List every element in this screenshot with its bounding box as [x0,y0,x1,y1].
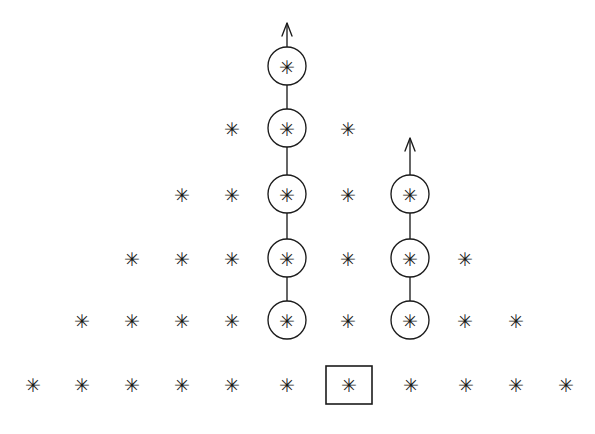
cell-r5-c4[interactable]: ✳ [224,310,240,332]
cell-r5-c6[interactable]: ✳ [340,310,356,332]
cell-r4-c5[interactable]: ✳ [340,248,356,270]
cell-r3-c2[interactable]: ✳ [224,184,240,206]
cell-r3-c3[interactable]: ✳ [268,175,306,213]
star-marker: ✳ [457,248,473,270]
cell-r2-c3[interactable]: ✳ [340,118,356,140]
star-marker: ✳ [174,184,190,206]
star-marker: ✳ [124,374,140,396]
cell-r6-c5[interactable]: ✳ [224,374,240,396]
star-marker: ✳ [174,248,190,270]
cell-r4-c7[interactable]: ✳ [457,248,473,270]
cell-r5-c2[interactable]: ✳ [124,310,140,332]
star-marker: ✳ [279,184,295,206]
cell-r4-c2[interactable]: ✳ [174,248,190,270]
cell-r6-c8[interactable]: ✳ [403,374,419,396]
star-marker: ✳ [402,248,418,270]
cell-r3-c5[interactable]: ✳ [391,175,429,213]
star-marker: ✳ [74,374,90,396]
star-marker: ✳ [340,248,356,270]
cell-r6-c1[interactable]: ✳ [25,374,41,396]
star-marker: ✳ [224,310,240,332]
star-marker: ✳ [341,374,357,396]
star-marker: ✳ [224,184,240,206]
cell-r4-c4[interactable]: ✳ [268,239,306,277]
star-marker: ✳ [224,118,240,140]
star-marker: ✳ [279,118,295,140]
star-marker: ✳ [402,184,418,206]
cell-r5-c1[interactable]: ✳ [74,310,90,332]
cell-r6-c3[interactable]: ✳ [124,374,140,396]
star-marker: ✳ [74,310,90,332]
diagram-canvas: ✳✳✳✳✳✳✳✳✳✳✳✳✳✳✳✳✳✳✳✳✳✳✳✳✳✳✳✳✳✳✳✳✳✳✳✳ [0,0,595,434]
star-marker: ✳ [340,118,356,140]
star-marker: ✳ [124,248,140,270]
lattice-row-3: ✳✳✳✳✳ [174,175,429,213]
star-marker: ✳ [174,374,190,396]
star-marker: ✳ [279,310,295,332]
cell-r5-c9[interactable]: ✳ [508,310,524,332]
star-marker: ✳ [279,374,295,396]
star-marker: ✳ [279,56,295,78]
cell-r6-c10[interactable]: ✳ [508,374,524,396]
cell-r6-c2[interactable]: ✳ [74,374,90,396]
cell-r4-c1[interactable]: ✳ [124,248,140,270]
lattice-row-4: ✳✳✳✳✳✳✳ [124,239,473,277]
cell-r5-c3[interactable]: ✳ [174,310,190,332]
cell-r6-c4[interactable]: ✳ [174,374,190,396]
cell-r2-c1[interactable]: ✳ [224,118,240,140]
cell-r4-c6[interactable]: ✳ [391,239,429,277]
star-marker: ✳ [174,310,190,332]
star-marker: ✳ [124,310,140,332]
star-marker: ✳ [25,374,41,396]
star-marker: ✳ [508,310,524,332]
star-marker: ✳ [403,374,419,396]
star-marker: ✳ [508,374,524,396]
star-marker: ✳ [340,184,356,206]
lattice-row-5: ✳✳✳✳✳✳✳✳✳ [74,301,524,339]
lattice-row-6: ✳✳✳✳✳✳✳✳✳✳✳ [25,366,574,404]
cell-r3-c1[interactable]: ✳ [174,184,190,206]
cell-r6-c11[interactable]: ✳ [558,374,574,396]
star-lattice-diagram: ✳✳✳✳✳✳✳✳✳✳✳✳✳✳✳✳✳✳✳✳✳✳✳✳✳✳✳✳✳✳✳✳✳✳✳✳ [0,0,595,434]
lattice-cells-layer: ✳✳✳✳✳✳✳✳✳✳✳✳✳✳✳✳✳✳✳✳✳✳✳✳✳✳✳✳✳✳✳✳✳✳✳✳ [25,47,574,404]
star-marker: ✳ [224,374,240,396]
star-marker: ✳ [224,248,240,270]
cell-r6-c6[interactable]: ✳ [279,374,295,396]
star-marker: ✳ [279,248,295,270]
cell-r1-c1[interactable]: ✳ [268,47,306,85]
cell-r3-c4[interactable]: ✳ [340,184,356,206]
cell-r6-c9[interactable]: ✳ [458,374,474,396]
star-marker: ✳ [457,310,473,332]
star-marker: ✳ [458,374,474,396]
cell-r5-c5[interactable]: ✳ [268,301,306,339]
lattice-row-2: ✳✳✳ [224,109,356,147]
star-marker: ✳ [402,310,418,332]
cell-r6-c7[interactable]: ✳ [326,366,372,404]
cell-r5-c7[interactable]: ✳ [391,301,429,339]
cell-r5-c8[interactable]: ✳ [457,310,473,332]
star-marker: ✳ [558,374,574,396]
lattice-row-1: ✳ [268,47,306,85]
chain-arrows-layer [282,23,415,175]
star-marker: ✳ [340,310,356,332]
cell-r4-c3[interactable]: ✳ [224,248,240,270]
cell-r2-c2[interactable]: ✳ [268,109,306,147]
